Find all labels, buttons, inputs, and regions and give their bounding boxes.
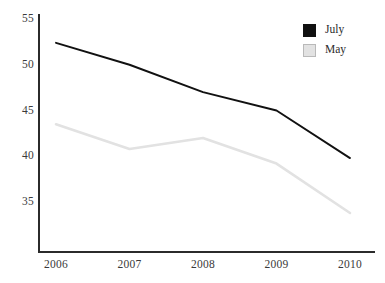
black-square-icon — [303, 24, 316, 37]
legend-label-may: May — [325, 44, 346, 56]
gray-square-icon — [303, 44, 316, 57]
series-line-may — [56, 124, 350, 213]
legend-label-july: July — [325, 24, 344, 36]
chart-legend: July May — [303, 21, 346, 61]
legend-item-july: July — [303, 21, 346, 39]
line-chart: 5550454035 20062007200820092010 July May — [0, 0, 385, 283]
legend-item-may: May — [303, 41, 346, 59]
